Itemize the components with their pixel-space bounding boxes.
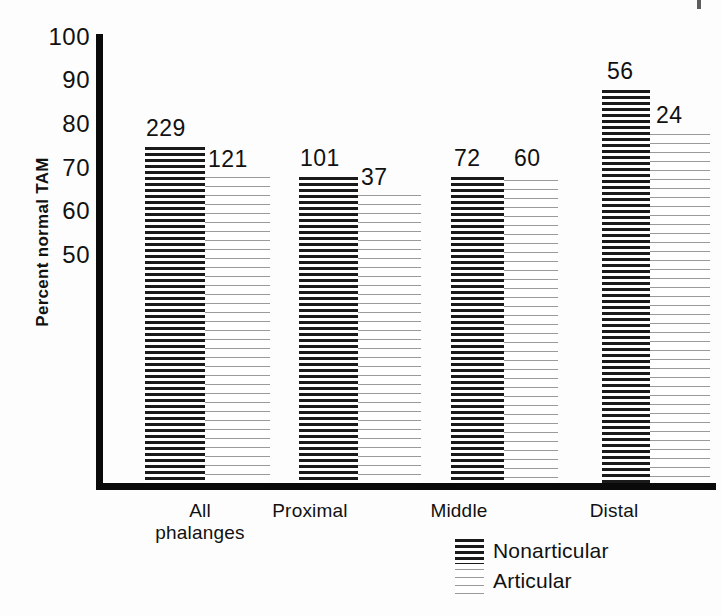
bar-articular-all-phalanges (205, 177, 270, 483)
bar-articular-proximal (358, 195, 421, 483)
bar-value-label: 121 (208, 148, 248, 171)
y-tick-label: 60 (62, 199, 90, 223)
bar-value-label: 56 (607, 60, 634, 83)
x-tick-line-1: Middle (399, 500, 519, 522)
legend-label: Articular (493, 569, 572, 593)
x-tick-label-middle: Middle (399, 500, 519, 522)
x-tick-line-1: Proximal (240, 500, 380, 522)
bar-value-label: 101 (300, 147, 340, 170)
y-tick-label: 90 (62, 68, 90, 92)
legend-label: Nonarticular (493, 539, 609, 563)
y-tick-label: 80 (62, 112, 90, 136)
legend: Nonarticular Articular (455, 536, 705, 596)
x-tick-label-proximal: Proximal (240, 500, 380, 522)
y-axis-tick-labels: 100 90 80 70 60 50 (34, 0, 90, 490)
legend-swatch-articular-icon (455, 569, 484, 594)
legend-item-articular: Articular (455, 566, 705, 596)
legend-swatch-nonarticular-icon (455, 539, 484, 564)
y-tick-label: 50 (62, 243, 90, 267)
bar-value-label: 60 (514, 147, 541, 170)
bar-nonarticular-middle (451, 177, 504, 483)
x-axis-line (96, 483, 716, 490)
bar-nonarticular-proximal (299, 177, 358, 483)
bar-value-label: 72 (454, 147, 481, 170)
plot-area: 229 121 101 37 72 60 56 24 (103, 34, 716, 483)
chart-figure: Percent normal TAM 100 90 80 70 60 50 22… (0, 0, 721, 616)
bar-articular-middle (504, 180, 558, 483)
y-tick-label: 100 (48, 25, 90, 49)
bar-value-label: 37 (361, 166, 388, 189)
bar-value-label: 229 (146, 117, 186, 140)
bar-nonarticular-all-phalanges (145, 147, 205, 483)
bar-nonarticular-distal (602, 90, 650, 483)
x-tick-line-2: phalanges (140, 522, 260, 544)
bar-articular-distal (650, 134, 710, 483)
x-tick-line-1: Distal (554, 500, 674, 522)
legend-item-nonarticular: Nonarticular (455, 536, 705, 566)
y-axis-line (96, 34, 103, 490)
bar-value-label: 24 (656, 104, 683, 127)
scan-edge-artifact (697, 0, 701, 9)
y-tick-label: 70 (62, 156, 90, 180)
x-tick-label-distal: Distal (554, 500, 674, 522)
